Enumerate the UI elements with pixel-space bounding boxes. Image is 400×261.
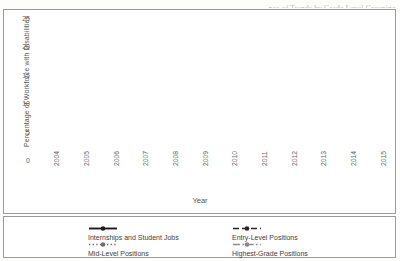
legend-frame xyxy=(3,216,396,258)
legend-swatch xyxy=(232,240,262,249)
plot-area-frame xyxy=(3,9,396,214)
legend-swatch xyxy=(88,240,118,249)
legend-swatch xyxy=(88,224,118,233)
legend-item-1[interactable]: Internships and Student Jobs xyxy=(88,224,179,241)
legend-label: Mid-Level Positions xyxy=(88,250,149,257)
figure-title-text: …nce of Trends by Grade Level Grouping xyxy=(261,4,396,8)
y-axis-title: Percentage of Workforce with Disabilitie… xyxy=(23,12,30,152)
legend-item-3[interactable]: Mid-Level Positions xyxy=(88,240,149,257)
chart-figure: …nce of Trends by Grade Level Grouping P… xyxy=(0,0,400,261)
legend-item-4[interactable]: Highest-Grade Positions xyxy=(232,240,308,257)
legend-label: Highest-Grade Positions xyxy=(232,250,308,257)
cropped-figure-title: …nce of Trends by Grade Level Grouping xyxy=(0,0,400,8)
legend-item-2[interactable]: Entry-Level Positions xyxy=(232,224,298,241)
x-axis-title: Year xyxy=(0,196,400,205)
legend-swatch xyxy=(232,224,262,233)
